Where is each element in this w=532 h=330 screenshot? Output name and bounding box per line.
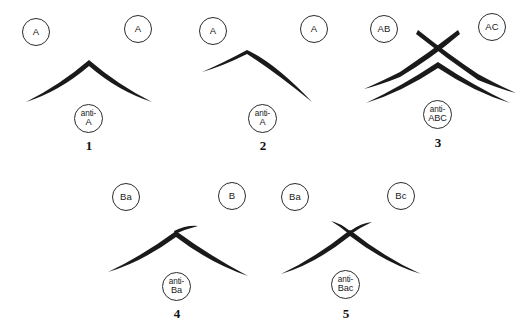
immunodiffusion-figure: A A anti- A 1 A A anti- A 2 — [0, 0, 532, 330]
well-label: Ba — [289, 192, 301, 202]
fused-precipitin-arc — [281, 230, 421, 274]
panel-5: Ba Bc anti- Bac 5 — [265, 170, 450, 330]
well-antibody-bottom[interactable]: anti- A — [74, 104, 103, 133]
well-antigen-left[interactable]: Ba — [281, 183, 309, 211]
fused-precipitin-arc — [26, 60, 152, 102]
well-label-target: A — [259, 118, 265, 127]
panel-1: A A anti- A 1 — [0, 0, 180, 165]
well-antigen-right[interactable]: A — [300, 15, 328, 43]
spur-right — [350, 222, 372, 234]
fused-precipitin-arc — [108, 231, 248, 276]
panel-number: 2 — [253, 138, 273, 154]
spur — [174, 226, 198, 234]
panel-2: A A anti- A 2 — [175, 0, 355, 165]
panel-number: 4 — [167, 306, 187, 322]
panel-number: 3 — [428, 135, 448, 151]
spur-left — [331, 221, 350, 234]
well-label: A — [135, 24, 141, 34]
well-label: Ba — [120, 192, 132, 202]
panel-4: Ba B anti- Ba 4 — [90, 170, 275, 330]
well-antigen-right[interactable]: B — [218, 182, 246, 210]
well-label: A — [33, 27, 39, 37]
well-label: AC — [485, 22, 498, 32]
well-antigen-left[interactable]: AB — [370, 15, 398, 43]
well-label: B — [229, 191, 235, 201]
well-label-target: ABC — [428, 114, 447, 123]
well-label-target: A — [85, 118, 91, 127]
well-label-target: Ba — [171, 286, 182, 295]
well-antigen-left[interactable]: A — [22, 18, 50, 46]
well-label: Bc — [395, 191, 406, 201]
well-antigen-left[interactable]: A — [199, 17, 227, 45]
well-label: A — [210, 26, 216, 36]
well-antibody-bottom[interactable]: anti- Bac — [331, 270, 360, 299]
well-antibody-bottom[interactable]: anti- ABC — [423, 100, 452, 129]
well-label: A — [311, 24, 317, 34]
well-label-target: Bac — [338, 284, 354, 293]
panel-number: 1 — [79, 138, 99, 154]
well-antigen-right[interactable]: Bc — [387, 182, 415, 210]
panel-number: 5 — [336, 306, 356, 322]
well-antigen-left[interactable]: Ba — [112, 183, 140, 211]
well-antigen-right[interactable]: A — [124, 15, 152, 43]
well-antibody-bottom[interactable]: anti- Ba — [162, 272, 191, 301]
well-antibody-bottom[interactable]: anti- A — [248, 104, 277, 133]
well-antigen-right[interactable]: AC — [478, 13, 506, 41]
precipitin-arc-thin-left — [202, 50, 312, 102]
well-label: AB — [378, 24, 391, 34]
panel-3: AB AC anti- ABC 3 — [350, 0, 532, 165]
